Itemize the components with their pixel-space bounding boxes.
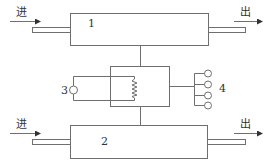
unit-1-label: 1 xyxy=(88,17,95,30)
unit-2-inlet-label: 进 xyxy=(16,118,27,131)
sensor-circuit: 3 xyxy=(61,77,137,101)
diagram-canvas: 1 进 出 2 进 出 3 xyxy=(0,0,269,167)
unit-1: 1 进 出 xyxy=(10,5,262,46)
unit-2-box xyxy=(71,126,208,159)
unit-2-label: 2 xyxy=(101,135,108,148)
terminal-4-icon xyxy=(205,102,212,109)
unit-2: 2 进 出 xyxy=(10,117,262,159)
sensor-3-icon xyxy=(70,86,78,94)
terminal-1-icon xyxy=(205,70,212,77)
terminal-3-icon xyxy=(205,92,212,99)
terminal-2-icon xyxy=(205,81,212,88)
sensor-circuit-top-wire xyxy=(74,77,135,87)
unit-1-outlet-label: 出 xyxy=(240,5,251,19)
terminal-block: 4 xyxy=(170,70,227,109)
unit-1-outlet-pipe xyxy=(209,28,246,33)
terminal-block-label: 4 xyxy=(219,82,226,95)
unit-1-inlet-pipe xyxy=(33,28,71,33)
sensor-3-label: 3 xyxy=(61,84,68,97)
unit-2-outlet-pipe xyxy=(208,140,246,145)
sensor-circuit-bottom-wire xyxy=(74,94,135,101)
unit-1-inlet-label: 进 xyxy=(16,6,27,19)
resistor-icon xyxy=(132,79,137,98)
unit-2-inlet-pipe xyxy=(33,140,71,145)
unit-2-outlet-label: 出 xyxy=(240,117,251,131)
